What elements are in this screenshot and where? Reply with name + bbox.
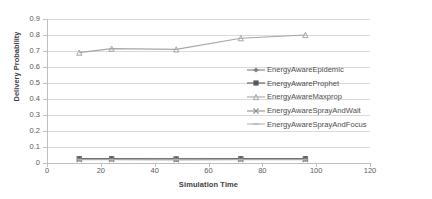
legend-item-4[interactable]: EnergyAwareSprayAndFocus <box>246 117 432 131</box>
legend-marker-icon <box>246 64 266 76</box>
legend-item-3[interactable]: EnergyAwareSprayAndWait <box>246 104 432 118</box>
legend-item-label: EnergyAwareSprayAndWait <box>266 106 361 115</box>
chart-container: 00.10.20.30.40.50.60.70.80.9 02040608010… <box>0 0 432 199</box>
data-point-marker <box>253 81 258 86</box>
legend-item-label: EnergyAwareEpidemic <box>266 65 344 74</box>
legend-item-0[interactable]: EnergyAwareEpidemic <box>246 63 432 77</box>
legend-marker-icon <box>246 77 266 89</box>
legend-item-label: EnergyAwareProphet <box>266 79 339 88</box>
legend-item-2[interactable]: EnergyAwareMaxprop <box>246 90 432 104</box>
legend: EnergyAwareEpidemicEnergyAwareProphetEne… <box>246 63 432 131</box>
legend-item-label: EnergyAwareMaxprop <box>266 92 342 101</box>
legend-item-label: EnergyAwareSprayAndFocus <box>266 120 366 129</box>
legend-marker-icon <box>246 91 266 103</box>
legend-marker-icon <box>246 105 266 117</box>
series-2 <box>77 32 308 55</box>
legend-marker-icon <box>246 118 266 130</box>
legend-item-1[interactable]: EnergyAwareProphet <box>246 77 432 91</box>
data-point-marker <box>253 67 258 72</box>
